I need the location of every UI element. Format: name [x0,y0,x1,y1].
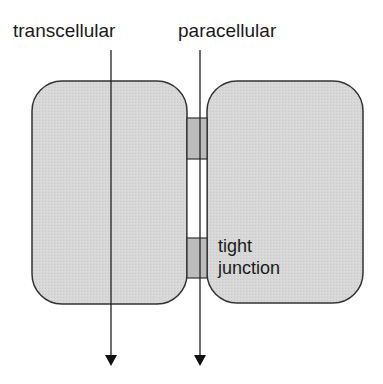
transcellular-arrowhead-icon [105,355,117,366]
tight-junction-label-line2: junction [217,258,280,278]
paracellular-label: paracellular [178,20,277,41]
transport-diagram: transcellular paracellular tight junctio… [0,0,383,384]
tight-junction-label-line1: tight [218,236,252,256]
tight-junction [187,238,207,278]
upper-junction [187,118,207,159]
paracellular-arrowhead-icon [194,355,206,366]
left-cell [32,81,187,304]
transcellular-label: transcellular [13,20,116,41]
